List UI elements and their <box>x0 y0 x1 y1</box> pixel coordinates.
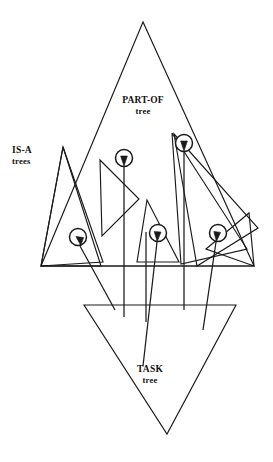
link-line-d <box>143 242 157 366</box>
knowledge-structure-diagram: PART-OF tree IS-A trees TASK tree <box>0 0 273 462</box>
is-a-label-line1: IS-A <box>12 145 32 155</box>
task-label-line2: tree <box>143 375 158 385</box>
part-of-label-line2: tree <box>136 106 151 116</box>
link-line-e <box>203 242 216 330</box>
is-a-tree-4 <box>172 133 247 264</box>
is-a-tree-1 <box>41 147 101 266</box>
is-a-tree-3 <box>100 160 139 236</box>
task-label-line1: TASK <box>137 364 163 374</box>
is-a-label-line2: trees <box>12 156 31 166</box>
is-a-tree-2 <box>41 147 103 266</box>
part-of-label-line1: PART-OF <box>122 95 164 105</box>
diagram-canvas: PART-OF tree IS-A trees TASK tree <box>0 0 273 462</box>
